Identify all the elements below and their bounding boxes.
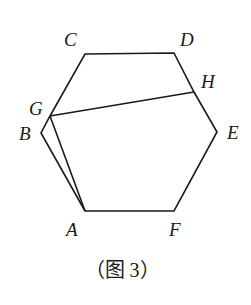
label-F: F bbox=[168, 219, 181, 240]
segment-GA bbox=[50, 116, 85, 211]
label-H: H bbox=[200, 71, 216, 92]
label-D: D bbox=[179, 29, 194, 50]
segment-GH bbox=[50, 92, 194, 116]
vertex-labels: C D H G B E A F bbox=[19, 29, 239, 240]
label-B: B bbox=[19, 123, 31, 144]
hexagon-edges bbox=[41, 53, 217, 211]
hexagon-ABCDEF bbox=[41, 53, 217, 211]
hexagon-diagram: C D H G B E A F （图 3） bbox=[0, 0, 251, 305]
label-G: G bbox=[29, 98, 43, 119]
label-A: A bbox=[64, 219, 78, 240]
label-C: C bbox=[64, 29, 77, 50]
figure-caption: （图 3） bbox=[85, 259, 160, 281]
label-E: E bbox=[226, 122, 239, 143]
